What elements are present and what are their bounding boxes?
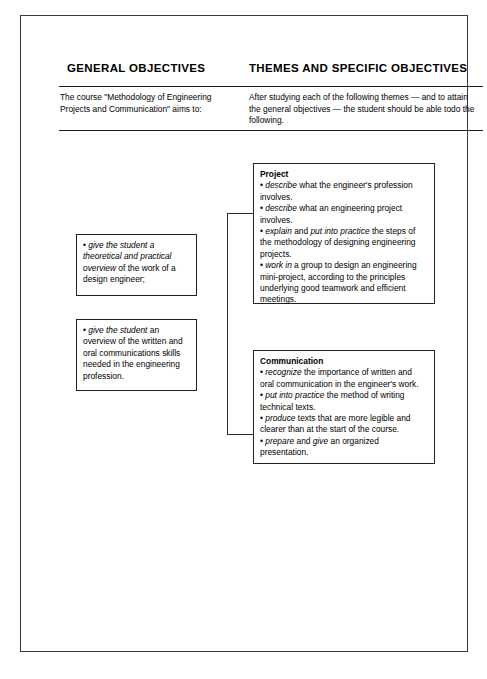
bracket-connector-to-communication — [227, 434, 254, 435]
theme-box-project-items: • describe what the engineer's professio… — [260, 180, 428, 305]
page-frame: GENERAL OBJECTIVES THEMES AND SPECIFIC O… — [20, 15, 468, 652]
list-item: • work in a group to design an engineeri… — [260, 260, 428, 306]
bracket-connector-vertical — [227, 213, 228, 435]
list-item: • recognize the importance of written an… — [260, 367, 428, 390]
column-heading-general-objectives: GENERAL OBJECTIVES — [67, 62, 205, 74]
intro-text-themes: After studying each of the following the… — [249, 92, 481, 127]
bracket-connector-to-project — [227, 213, 254, 214]
list-item: • put into practice the method of writin… — [260, 390, 428, 413]
header-rule-bottom — [59, 130, 483, 131]
general-objective-box-1-text: • give the student a theoretical and pra… — [83, 240, 190, 286]
list-item: • produce texts that are more legible an… — [260, 413, 428, 436]
theme-box-project-title: Project — [260, 169, 428, 180]
list-item: • explain and put into practice the step… — [260, 226, 428, 260]
intro-text-general-objectives: The course "Methodology of Engineering P… — [60, 92, 232, 115]
list-item: • prepare and give an organized presenta… — [260, 436, 428, 459]
theme-box-communication-title: Communication — [260, 356, 428, 367]
general-objective-box-2-text: • give the student an overview of the wr… — [83, 325, 190, 382]
theme-box-communication: Communication • recognize the importance… — [253, 350, 435, 464]
theme-box-communication-items: • recognize the importance of written an… — [260, 367, 428, 458]
general-objective-box-1: • give the student a theoretical and pra… — [76, 234, 197, 296]
header-rule-top — [59, 86, 483, 87]
list-item: • describe what the engineer's professio… — [260, 180, 428, 203]
theme-box-project: Project • describe what the engineer's p… — [253, 163, 435, 304]
list-item: • describe what an engineering project i… — [260, 203, 428, 226]
column-heading-themes-specific-objectives: THEMES AND SPECIFIC OBJECTIVES — [249, 62, 467, 74]
general-objective-box-2: • give the student an overview of the wr… — [76, 319, 197, 391]
